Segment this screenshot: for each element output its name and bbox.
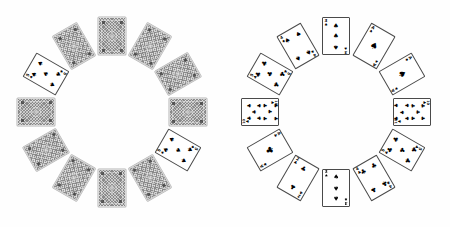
club-pip-icon: ♣	[405, 116, 410, 121]
spade-pip-icon: ♠	[42, 70, 51, 78]
card-rank-label: 3	[345, 201, 348, 205]
card-back-corner-icon	[120, 173, 123, 176]
club-pip-icon: ♣	[299, 165, 307, 174]
card-pip-grid: ♠♠♠♠	[283, 30, 313, 62]
card-pip-grid: ♠	[359, 30, 389, 62]
card-face-10-of-clubs[interactable]: 10♣10♣♣♣♣♣♣♣♣♣♣♣	[393, 98, 431, 126]
card-face-a-of-spades[interactable]: A♠A♠♠	[378, 52, 425, 95]
card-back[interactable]	[128, 154, 171, 201]
card-back-corner-icon	[21, 102, 24, 105]
spade-pip-icon: ♠	[294, 30, 302, 39]
club-pip-icon: ♣	[403, 156, 412, 164]
club-pip-icon: ♣	[273, 116, 278, 121]
card-face-4-of-spades[interactable]: 4♠4♠♠♠♠♠	[276, 23, 319, 70]
card-face-2-of-clubs[interactable]: 2♣2♣♣♣	[276, 154, 319, 201]
spade-pip-icon: ♠	[333, 23, 339, 30]
card-face-4-of-clubs[interactable]: 4♣4♣♣♣♣♣	[352, 154, 395, 201]
card-back-emblem-icon	[107, 31, 117, 41]
club-pip-icon: ♣	[369, 185, 377, 194]
spade-pip-icon: ♠	[36, 59, 45, 67]
spade-pip-icon: ♠	[185, 145, 194, 153]
card-pip-grid: ♣♣♣♣♣♣♣♣♣♣	[399, 103, 426, 122]
card-pip-grid: ♣♣♣♣	[359, 162, 389, 194]
spade-pip-icon: ♠	[168, 135, 177, 143]
spade-pip-icon: ♠	[174, 146, 183, 154]
card-back-corner-icon	[201, 120, 204, 123]
card-pip-grid: ♣♣♣♣♣♣♣♣♣♣	[247, 103, 274, 122]
card-pip-grid: ♠♠♠	[327, 175, 346, 202]
spade-pip-icon: ♠	[293, 54, 301, 63]
card-face-5-of-spades[interactable]: 5♠5♠♠♠♠♠♠	[23, 52, 70, 95]
card-face-3-of-spades[interactable]: 3♠3♠♠♠♠	[322, 17, 350, 55]
card-back-corner-icon	[102, 173, 105, 176]
club-pip-icon: ♣	[271, 80, 280, 88]
club-pip-icon: ♣	[410, 103, 415, 108]
card-back-corner-icon	[173, 120, 176, 123]
spade-pip-icon: ♠	[396, 68, 408, 79]
club-pip-icon: ♣	[405, 103, 410, 108]
card-back-corner-icon	[71, 61, 75, 65]
club-pip-icon: ♣	[359, 168, 367, 177]
card-back[interactable]	[98, 17, 126, 55]
card-scene: 5♠5♠♠♠♠♠♠5♠5♠♠♠♠♠♠3♠3♠♠♠♠A♠A♠♠A♠A♠♠10♣10…	[0, 0, 450, 227]
card-face-5-of-clubs[interactable]: 5♣5♣♣♣♣♣♣	[378, 128, 425, 171]
spade-pip-icon: ♠	[333, 195, 339, 202]
card-back-corner-icon	[120, 21, 123, 24]
spade-pip-icon: ♠	[333, 33, 339, 40]
card-face-a-of-clubs[interactable]: A♣A♣♣	[247, 128, 294, 171]
card-pip-grid: ♣♣	[283, 162, 313, 194]
club-pip-icon: ♣	[370, 162, 378, 171]
club-pip-icon: ♣	[392, 135, 401, 143]
spade-pip-icon: ♠	[333, 175, 339, 182]
club-pip-icon: ♣	[247, 116, 252, 121]
card-back-corner-icon	[49, 102, 52, 105]
club-pip-icon: ♣	[410, 116, 415, 121]
club-pip-icon: ♣	[398, 146, 407, 154]
card-pip-grid: ♣♣♣♣♣	[254, 59, 286, 89]
card-back[interactable]	[23, 128, 70, 171]
club-pip-icon: ♣	[262, 116, 267, 121]
club-pip-icon: ♣	[262, 103, 267, 108]
card-face-5-of-clubs[interactable]: 5♣5♣♣♣♣♣♣	[247, 52, 294, 95]
club-pip-icon: ♣	[409, 145, 418, 153]
card-face-10-of-clubs[interactable]: 10♣10♣♣♣♣♣♣♣♣♣♣♣	[241, 98, 279, 126]
card-face-a-of-spades[interactable]: A♠A♠♠	[352, 23, 395, 70]
club-pip-icon: ♣	[273, 103, 278, 108]
club-pip-icon: ♣	[394, 116, 399, 121]
card-pip-grid: ♠♠♠♠♠	[162, 135, 194, 165]
club-pip-icon: ♣	[247, 103, 252, 108]
club-pip-icon: ♣	[252, 110, 257, 115]
card-pip-grid: ♣	[254, 135, 286, 165]
card-back[interactable]	[52, 154, 95, 201]
card-back-corner-icon	[87, 52, 91, 56]
spade-pip-icon: ♠	[47, 80, 56, 88]
card-back-corner-icon	[102, 49, 105, 52]
card-back[interactable]	[169, 98, 207, 126]
card-back-corner-icon	[49, 120, 52, 123]
club-pip-icon: ♣	[394, 103, 399, 108]
card-face-3-of-spades[interactable]: 3♠3♠♠♠♠	[322, 169, 350, 207]
card-back-emblem-icon	[183, 107, 193, 117]
spade-pip-icon: ♠	[283, 36, 291, 45]
card-back-emblem-icon	[31, 107, 41, 117]
card-pip-grid: ♣♣♣♣♣	[386, 135, 418, 165]
club-pip-icon: ♣	[267, 110, 272, 115]
card-back-corner-icon	[173, 102, 176, 105]
card-back[interactable]	[98, 169, 126, 207]
card-back[interactable]	[17, 98, 55, 126]
card-back-corner-icon	[120, 201, 123, 204]
spade-pip-icon: ♠	[333, 185, 339, 192]
card-face-5-of-spades[interactable]: 5♠5♠♠♠♠♠♠	[154, 128, 201, 171]
spade-pip-icon: ♠	[368, 40, 379, 52]
card-back-emblem-icon	[107, 183, 117, 193]
card-back[interactable]	[154, 52, 201, 95]
spade-pip-icon: ♠	[179, 156, 188, 164]
club-pip-icon: ♣	[289, 182, 297, 191]
card-pip-grid: ♠♠♠♠♠	[30, 59, 62, 89]
club-pip-icon: ♣	[264, 144, 276, 155]
card-back[interactable]	[52, 23, 95, 70]
card-back[interactable]	[128, 23, 171, 70]
card-pip-grid: ♠	[386, 59, 418, 89]
card-back-corner-icon	[102, 21, 105, 24]
card-back-corner-icon	[21, 120, 24, 123]
